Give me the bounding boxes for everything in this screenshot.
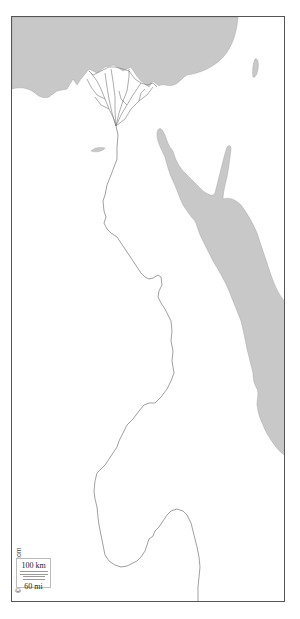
scale-km-label: 100 km [17,561,50,570]
scale-bar-box: 100 km 60 mi [16,558,51,588]
lake-qarun [91,147,105,151]
mediterranean-sea [12,17,238,98]
map-canvas[interactable] [12,17,285,602]
red-sea [157,128,285,456]
map-frame: © d-maps.com 100 km 60 mi [11,16,285,602]
dead-sea [253,59,259,77]
scale-bar-graphic [20,571,48,575]
scale-mi-label: 60 mi [17,582,50,591]
scale-bar-graphic-mi [23,576,45,580]
